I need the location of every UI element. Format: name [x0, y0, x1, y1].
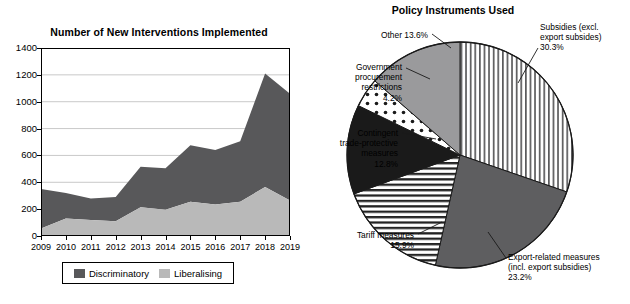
legend-label: Liberalising	[174, 268, 222, 279]
x-axis-tick	[190, 236, 191, 240]
y-axis-tick-label: 400	[0, 177, 37, 187]
y-axis-tick	[37, 182, 41, 183]
pie-label-government-procurement-restrictions: Governmentprocurementrestrictions4.2%	[310, 62, 402, 103]
pie-label-line: Contingent	[306, 128, 398, 138]
pie-chart-panel: Policy Instruments Used Subsidies (excl.…	[318, 0, 630, 304]
y-axis-tick	[37, 155, 41, 156]
y-axis-tick-label: 0	[0, 231, 37, 241]
pie-label-subsidies: Subsidies (excl.export subsides)30.3%	[540, 22, 628, 53]
x-axis-tick	[240, 236, 241, 240]
pie-label-line: 15.9%	[328, 240, 414, 250]
pie-label-line: export subsides)	[540, 32, 628, 42]
pie-label-other: Other 13.6%	[350, 30, 428, 40]
area-chart-title: Number of New Interventions Implemented	[0, 26, 318, 38]
legend-label: Discriminatory	[89, 268, 149, 279]
x-axis-tick	[41, 236, 42, 240]
pie-label-line: trade-protective	[306, 138, 398, 148]
y-axis-tick	[37, 129, 41, 130]
area-chart-panel: Number of New Interventions Implemented …	[0, 0, 318, 304]
legend-swatch-icon	[159, 269, 170, 278]
x-axis-tick-label: 2019	[275, 242, 305, 252]
y-axis-tick-label: 1400	[0, 43, 37, 53]
pie-label-line: Tariff measures	[328, 230, 414, 240]
pie-label-line: Export-related measures	[508, 252, 630, 262]
x-axis-tick	[166, 236, 167, 240]
x-axis-tick	[215, 236, 216, 240]
x-axis-tick	[141, 236, 142, 240]
area-chart-svg	[41, 48, 290, 236]
pie-label-line: restrictions	[310, 82, 402, 92]
y-axis-tick	[37, 102, 41, 103]
area-chart-plot	[41, 48, 290, 236]
pie-label-line: procurement	[310, 72, 402, 82]
pie-label-line: Government	[310, 62, 402, 72]
y-axis-tick	[37, 48, 41, 49]
pie-label-line: (incl. export subsidies)	[508, 262, 630, 272]
pie-label-line: 12.8%	[306, 159, 398, 169]
pie-label-line: 30.3%	[540, 42, 628, 52]
y-axis-tick-label: 1200	[0, 70, 37, 80]
figure-root: Number of New Interventions Implemented …	[0, 0, 630, 304]
pie-label-line: measures	[306, 148, 398, 158]
y-axis-tick-label: 200	[0, 204, 37, 214]
pie-label-line: 23.2%	[508, 272, 630, 282]
y-axis-tick	[37, 75, 41, 76]
y-axis-tick	[37, 209, 41, 210]
legend-swatch-icon	[74, 269, 85, 278]
pie-label-line: 4.2%	[310, 93, 402, 103]
x-axis-tick	[116, 236, 117, 240]
legend-item-discriminatory[interactable]: Discriminatory	[74, 268, 149, 279]
x-axis-tick	[265, 236, 266, 240]
y-axis-tick-label: 800	[0, 124, 37, 134]
x-axis-tick	[91, 236, 92, 240]
pie-label-export-related-measures: Export-related measures(incl. export sub…	[508, 252, 630, 283]
y-axis-tick-label: 1000	[0, 97, 37, 107]
x-axis-tick	[66, 236, 67, 240]
pie-label-contingent-trade-protective-measures: Contingenttrade-protectivemeasures12.8%	[306, 128, 398, 169]
pie-label-line: Other 13.6%	[350, 30, 428, 40]
legend-item-liberalising[interactable]: Liberalising	[159, 268, 222, 279]
y-axis-tick-label: 600	[0, 150, 37, 160]
area-chart-legend: DiscriminatoryLiberalising	[62, 262, 234, 284]
pie-label-tariff-measures: Tariff measures15.9%	[328, 230, 414, 250]
x-axis-tick	[290, 236, 291, 240]
pie-label-line: Subsidies (excl.	[540, 22, 628, 32]
